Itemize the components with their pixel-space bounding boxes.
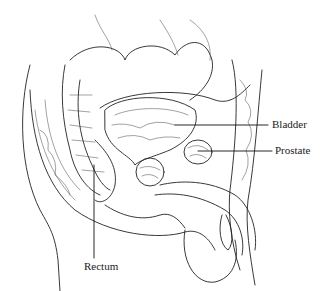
bladder-label: Bladder xyxy=(272,119,307,130)
rectum-label: Rectum xyxy=(84,261,118,272)
prostate-label: Prostate xyxy=(275,145,310,156)
anatomy-illustration: Bladder Prostate Rectum xyxy=(0,0,330,291)
